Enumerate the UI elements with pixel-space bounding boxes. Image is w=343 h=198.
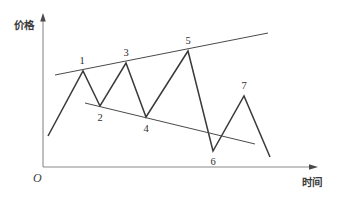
y-axis-arrow-icon [40, 13, 46, 22]
point-label-6: 6 [210, 156, 215, 167]
x-axis-arrow-icon [309, 164, 318, 170]
point-label-4: 4 [143, 123, 149, 134]
point-label-2: 2 [97, 112, 102, 123]
x-axis-label: 时间 [302, 176, 322, 188]
price-time-chart-figure: 1 2 3 4 5 6 7 价格 时间 O [0, 0, 343, 198]
point-label-7: 7 [241, 80, 246, 91]
point-label-3: 3 [123, 47, 128, 58]
point-label-5: 5 [185, 35, 190, 46]
y-axis-label: 价格 [14, 19, 35, 31]
lower-trendline [85, 103, 255, 144]
chart-canvas: 1 2 3 4 5 6 7 价格 时间 O [0, 0, 343, 198]
upper-trendline [55, 33, 268, 75]
origin-label: O [33, 171, 42, 185]
price-zigzag-series [48, 51, 270, 157]
point-label-1: 1 [79, 55, 84, 66]
